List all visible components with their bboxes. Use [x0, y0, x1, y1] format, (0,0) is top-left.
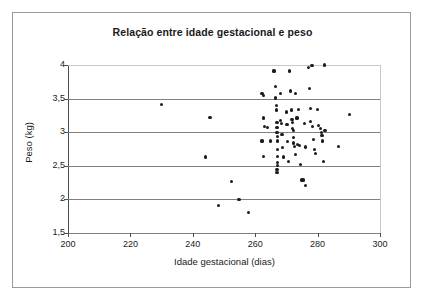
y-tick-mark: [64, 65, 68, 66]
data-point: [274, 85, 277, 88]
data-point: [275, 171, 278, 174]
x-tick-label: 200: [48, 239, 88, 249]
data-point: [217, 204, 220, 207]
data-point: [262, 116, 265, 119]
data-point: [316, 108, 319, 111]
x-tick-mark: [380, 233, 381, 237]
data-point: [337, 145, 340, 148]
gridline-y: [68, 65, 380, 66]
data-point: [323, 63, 326, 66]
data-point: [281, 146, 284, 149]
data-point: [311, 125, 314, 128]
data-point: [275, 126, 278, 129]
x-tick-label: 260: [235, 239, 275, 249]
data-point: [314, 152, 317, 155]
data-point: [304, 184, 307, 187]
x-tick-label: 300: [360, 239, 400, 249]
data-point: [285, 110, 288, 113]
data-point: [204, 155, 207, 158]
data-point: [285, 123, 288, 126]
x-tick-mark: [255, 233, 256, 237]
data-point: [294, 92, 297, 95]
data-point: [294, 153, 297, 156]
data-point: [304, 145, 307, 148]
data-point: [288, 69, 291, 72]
data-point: [275, 104, 278, 107]
gridline-y: [68, 166, 380, 167]
data-point: [299, 163, 302, 166]
x-tick-mark: [193, 233, 194, 237]
data-point: [313, 148, 316, 151]
plot-right-edge: [380, 65, 381, 233]
data-point: [280, 133, 283, 136]
data-point: [302, 178, 305, 181]
x-axis-title: Idade gestacional (dias): [68, 256, 381, 267]
gridline-y: [68, 233, 380, 234]
gridline-y: [68, 132, 380, 133]
plot-area: [68, 65, 380, 233]
data-point: [260, 139, 263, 142]
x-tick-mark: [130, 233, 131, 237]
data-point: [320, 134, 323, 137]
data-point: [275, 131, 278, 134]
data-point: [272, 69, 275, 72]
data-point: [348, 113, 351, 116]
y-axis-title: Peso (kg): [23, 98, 34, 188]
gridline-y: [68, 99, 380, 100]
data-point: [276, 135, 279, 138]
data-point: [266, 126, 269, 129]
data-point: [297, 108, 300, 111]
data-point: [286, 140, 289, 143]
data-point: [321, 139, 324, 142]
data-point: [291, 121, 294, 124]
data-point: [322, 160, 325, 163]
data-point: [312, 138, 315, 141]
data-point: [308, 87, 311, 90]
y-tick-mark: [64, 132, 68, 133]
data-point: [298, 144, 301, 147]
data-point: [262, 94, 265, 97]
data-point: [279, 92, 282, 95]
data-point: [319, 127, 322, 130]
data-point: [237, 198, 240, 201]
x-tick-label: 240: [173, 239, 213, 249]
data-point: [323, 129, 326, 132]
data-point: [276, 155, 279, 158]
data-point: [230, 180, 233, 183]
x-tick-mark: [68, 233, 69, 237]
data-point: [307, 66, 310, 69]
data-point: [276, 139, 279, 142]
data-point: [160, 103, 163, 106]
x-tick-mark: [318, 233, 319, 237]
data-point: [262, 155, 265, 158]
data-point: [287, 160, 290, 163]
data-point: [276, 148, 279, 151]
data-point: [282, 155, 285, 158]
x-tick-label: 280: [298, 239, 338, 249]
data-point: [280, 122, 283, 125]
y-tick-mark: [64, 99, 68, 100]
chart-frame: Relação entre idade gestacional e peso 1…: [12, 12, 411, 288]
data-point: [292, 136, 295, 139]
data-point: [289, 90, 292, 93]
data-point: [303, 122, 306, 125]
data-point: [310, 64, 313, 67]
data-point: [309, 107, 312, 110]
data-point: [309, 120, 312, 123]
data-point: [247, 211, 250, 214]
data-point: [274, 97, 277, 100]
data-point: [295, 116, 298, 119]
data-point: [275, 121, 278, 124]
data-point: [269, 139, 272, 142]
data-point: [208, 116, 211, 119]
gridline-y: [68, 199, 380, 200]
data-point: [290, 108, 293, 111]
y-tick-mark: [64, 199, 68, 200]
data-point: [276, 164, 279, 167]
x-tick-label: 220: [110, 239, 150, 249]
y-tick-mark: [64, 166, 68, 167]
data-point: [275, 108, 278, 111]
